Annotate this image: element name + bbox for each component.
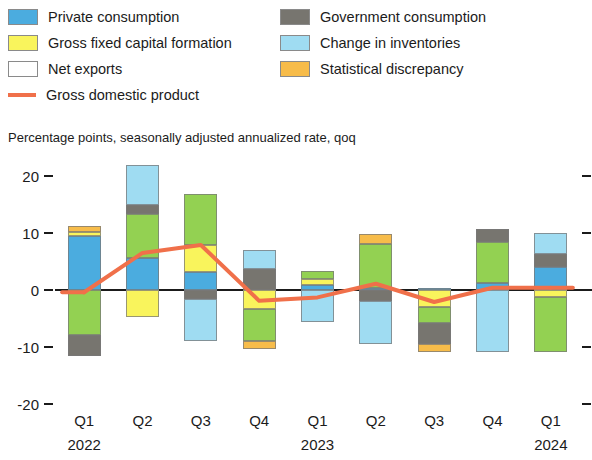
x-axis-quarter-label: Q2 [346, 412, 406, 429]
bar-stack[interactable] [418, 176, 451, 404]
bar-stack[interactable] [243, 176, 276, 404]
y-axis-tick-mark [44, 232, 53, 234]
bar-stack[interactable] [68, 176, 101, 404]
x-axis-quarter-label: Q1 [521, 412, 581, 429]
legend-color-swatch-change_in_inventories [280, 35, 310, 51]
y-axis-tick-mark [44, 289, 53, 291]
legend-item-change_in_inventories[interactable]: Change in inventories [280, 30, 486, 56]
legend-color-swatch-statistical_discrepancy [280, 61, 310, 77]
bar-segment-government-consumption [418, 323, 451, 344]
legend-item-label: Change in inventories [320, 36, 460, 51]
y-axis-tick-label: 0 [31, 282, 39, 299]
bar-segment-net-exports [418, 307, 451, 323]
x-axis-quarter-label: Q3 [404, 412, 464, 429]
legend-item-label: Gross fixed capital formation [48, 36, 232, 51]
legend-item-label: Private consumption [48, 10, 179, 25]
bar-segment-government-consumption [184, 290, 217, 299]
bar-segment-private-consumption [476, 283, 509, 290]
y-axis-tick-label: -10 [17, 339, 39, 356]
y-axis-tick-mark-right [582, 403, 591, 405]
bar-segment-gross-fixed-capital-formation [68, 232, 101, 235]
bar-segment-government-consumption [534, 254, 567, 268]
legend-column-right: Government consumptionChange in inventor… [280, 4, 486, 82]
bar-stack[interactable] [476, 176, 509, 404]
chart-legend: Private consumptionGross fixed capital f… [8, 4, 583, 104]
legend-item-statistical_discrepancy[interactable]: Statistical discrepancy [280, 56, 486, 82]
chart-units-note: Percentage points, seasonally adjusted a… [8, 130, 356, 145]
bar-stack[interactable] [126, 176, 159, 404]
bar-segment-change-in-inventories [301, 290, 334, 322]
bar-segment-change-in-inventories [243, 250, 276, 269]
bar-segment-statistical-discrepancy [418, 344, 451, 351]
x-axis-year-label: 2024 [521, 436, 581, 453]
legend-item-label: Government consumption [320, 10, 486, 25]
bar-stack[interactable] [301, 176, 334, 404]
y-axis-tick-mark-right [582, 232, 591, 234]
bar-segment-government-consumption [359, 290, 392, 301]
x-axis-quarter-label: Q4 [463, 412, 523, 429]
y-axis-tick-mark [44, 403, 53, 405]
bar-segment-statistical-discrepancy [359, 234, 392, 244]
y-axis-tick-mark [44, 175, 53, 177]
bar-segment-gross-fixed-capital-formation [126, 290, 159, 317]
x-axis-quarter-label: Q4 [229, 412, 289, 429]
legend-item-government_consumption[interactable]: Government consumption [280, 4, 486, 30]
bar-segment-net-exports [68, 290, 101, 335]
legend-item-private_consumption[interactable]: Private consumption [8, 4, 232, 30]
legend-item-gross_fixed_capital_formation[interactable]: Gross fixed capital formation [8, 30, 232, 56]
legend-item-gdp[interactable]: Gross domestic product [8, 82, 232, 108]
bar-segment-government-consumption [243, 269, 276, 290]
bar-segment-government-consumption [476, 229, 509, 242]
y-axis-tick-mark-right [582, 346, 591, 348]
bar-segment-change-in-inventories [534, 233, 567, 254]
legend-color-swatch-gross_fixed_capital_formation [8, 35, 38, 51]
bar-stack[interactable] [534, 176, 567, 404]
legend-line-swatch-gdp [8, 93, 36, 97]
x-axis-quarter-label: Q1 [288, 412, 348, 429]
y-axis-tick-mark-right [582, 175, 591, 177]
bar-segment-net-exports [243, 309, 276, 341]
bar-segment-private-consumption [68, 236, 101, 290]
bar-segment-private-consumption [534, 267, 567, 290]
x-axis-year-label: 2022 [54, 436, 114, 453]
y-axis-tick-label: 10 [22, 225, 39, 242]
bar-segment-gross-fixed-capital-formation [301, 279, 334, 285]
bar-stack[interactable] [359, 176, 392, 404]
bar-segment-net-exports [301, 271, 334, 278]
x-axis-quarter-label: Q1 [54, 412, 114, 429]
bar-segment-private-consumption [126, 258, 159, 290]
bar-segment-gross-fixed-capital-formation [534, 290, 567, 297]
bar-segment-change-in-inventories [126, 165, 159, 204]
y-axis-tick-mark [44, 346, 53, 348]
bar-segment-statistical-discrepancy [68, 226, 101, 232]
legend-color-swatch-net_exports [8, 61, 38, 77]
legend-color-swatch-government_consumption [280, 9, 310, 25]
legend-item-label: Net exports [48, 62, 122, 77]
bar-segment-net-exports [184, 194, 217, 245]
bar-segment-net-exports [126, 214, 159, 258]
legend-color-swatch-private_consumption [8, 9, 38, 25]
legend-column-left: Private consumptionGross fixed capital f… [8, 4, 232, 108]
bar-segment-change-in-inventories [476, 290, 509, 352]
bar-segment-gross-fixed-capital-formation [243, 290, 276, 309]
bar-segment-statistical-discrepancy [243, 341, 276, 348]
bar-segment-government-consumption [126, 205, 159, 215]
legend-item-label: Gross domestic product [46, 88, 199, 103]
legend-item-net_exports[interactable]: Net exports [8, 56, 232, 82]
x-axis-quarter-label: Q3 [171, 412, 231, 429]
y-axis-tick-label: 20 [22, 168, 39, 185]
x-axis-quarter-label: Q2 [113, 412, 173, 429]
legend-item-label: Statistical discrepancy [320, 62, 463, 77]
bar-segment-net-exports [476, 242, 509, 282]
bar-segment-net-exports [534, 297, 567, 351]
bar-segment-gross-fixed-capital-formation [418, 290, 451, 307]
bar-segment-change-in-inventories [359, 301, 392, 344]
y-axis-tick-label: -20 [17, 396, 39, 413]
x-axis-year-label: 2023 [288, 436, 348, 453]
bar-segment-net-exports [359, 244, 392, 288]
bar-segment-change-in-inventories [184, 299, 217, 342]
plot-area: 20100-10-20 [55, 176, 580, 404]
bar-stack[interactable] [184, 176, 217, 404]
bar-segment-government-consumption [68, 335, 101, 356]
